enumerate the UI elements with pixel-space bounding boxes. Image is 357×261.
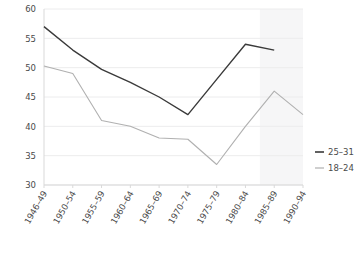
- y-axis-tick-label: 40: [25, 122, 36, 132]
- chart-canvas: 303540455055601946–491950–541955–591960–…: [0, 0, 357, 261]
- series-line-1: [44, 27, 274, 115]
- line-chart: 303540455055601946–491950–541955–591960–…: [0, 0, 357, 261]
- y-axis-tick-label: 55: [25, 34, 36, 44]
- x-axis-tick-label: 1975–79: [195, 189, 222, 226]
- x-axis-tick-label: 1946–49: [22, 189, 49, 226]
- y-axis-tick-label: 50: [25, 63, 36, 73]
- y-axis-tick-label: 45: [25, 92, 36, 102]
- x-axis-tick-label: 1970–74: [166, 189, 193, 226]
- x-axis-tick-label: 1980–84: [224, 189, 251, 226]
- x-axis-tick-label: 1985–89: [252, 189, 279, 226]
- y-axis-tick-label: 30: [25, 180, 36, 190]
- y-axis-tick-label: 35: [25, 151, 36, 161]
- legend-label-1: 25–31: [328, 147, 354, 157]
- x-axis-tick-label: 1990–94: [281, 189, 308, 226]
- y-axis-tick-label: 60: [25, 4, 36, 14]
- legend-label-2: 18–24: [328, 163, 354, 173]
- x-axis-tick-label: 1960–64: [109, 189, 136, 226]
- x-axis-tick-label: 1965–69: [137, 189, 164, 226]
- x-axis-tick-label: 1950–54: [51, 189, 78, 226]
- x-axis-tick-label: 1955–59: [80, 189, 107, 226]
